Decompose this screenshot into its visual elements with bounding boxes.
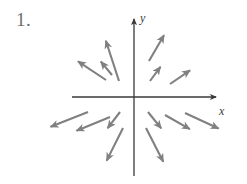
field-arrow-ll-shallow-near — [77, 117, 110, 131]
field-arrow-ll-shallow-far — [51, 112, 88, 127]
field-arrow-lr-shallow-near — [165, 115, 190, 129]
vector-field-plot: x y — [0, 0, 247, 184]
y-axis-label: y — [139, 11, 146, 25]
axes-group: x y — [72, 11, 225, 176]
field-arrow-lr-shallow-far — [185, 113, 219, 128]
field-arrow-ur-steep — [149, 35, 164, 61]
field-arrow-lr-steep-far — [146, 128, 163, 162]
figure-container: 1. x y — [0, 0, 247, 184]
field-arrow-ur-shallow — [170, 70, 190, 84]
field-arrow-ll-steep-near — [108, 112, 120, 128]
field-arrow-ul-mid — [101, 62, 112, 75]
field-arrow-ul-steep — [106, 41, 119, 81]
field-arrow-ll-steep-far — [107, 128, 123, 161]
x-axis-label: x — [218, 104, 225, 118]
field-arrow-lr-steep-near — [148, 112, 161, 128]
field-arrow-ur-mid — [150, 67, 160, 81]
